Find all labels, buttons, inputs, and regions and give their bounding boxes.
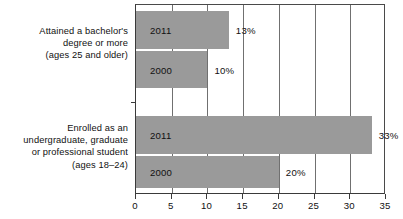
x-tick-25 xyxy=(314,194,315,199)
x-tick-label-10: 10 xyxy=(191,200,221,211)
bar-value-label: 33% xyxy=(379,130,399,141)
group-separator-tick xyxy=(131,102,136,103)
x-tick-label-20: 20 xyxy=(263,200,293,211)
bar-chart: Attained a bachelor's degree or more (ag… xyxy=(0,0,403,219)
x-tick-5 xyxy=(171,194,172,199)
gridline-20 xyxy=(279,5,280,193)
x-tick-label-30: 30 xyxy=(334,200,364,211)
x-tick-35 xyxy=(385,194,386,199)
bar-2011-bachelors: 2011 xyxy=(136,11,229,49)
bar-2000-bachelors: 2000 xyxy=(136,51,207,88)
bar-2011-enrolled: 2011 xyxy=(136,116,372,154)
x-tick-label-25: 25 xyxy=(299,200,329,211)
bar-2000-enrolled: 2000 xyxy=(136,156,279,188)
plot-area: 201113%200010%201133%200020% xyxy=(135,4,385,194)
bar-series-label: 2000 xyxy=(150,167,172,178)
x-tick-label-5: 5 xyxy=(156,200,186,211)
x-tick-30 xyxy=(349,194,350,199)
bar-series-label: 2011 xyxy=(150,130,171,141)
bar-value-label: 13% xyxy=(236,25,256,36)
bar-series-label: 2000 xyxy=(150,64,172,75)
x-tick-label-15: 15 xyxy=(227,200,257,211)
x-tick-15 xyxy=(242,194,243,199)
x-tick-10 xyxy=(206,194,207,199)
x-tick-label-35: 35 xyxy=(370,200,400,211)
x-tick-0 xyxy=(135,194,136,199)
x-tick-label-0: 0 xyxy=(120,200,150,211)
x-tick-20 xyxy=(278,194,279,199)
gridline-30 xyxy=(350,5,351,193)
category-label-bachelors-degree: Attained a bachelor's degree or more (ag… xyxy=(2,25,128,62)
bar-value-label: 20% xyxy=(286,167,306,178)
bar-series-label: 2011 xyxy=(150,25,171,36)
gridline-25 xyxy=(315,5,316,193)
category-label-enrolled-student: Enrolled as an undergraduate, graduate o… xyxy=(2,122,128,171)
bar-value-label: 10% xyxy=(214,64,234,75)
